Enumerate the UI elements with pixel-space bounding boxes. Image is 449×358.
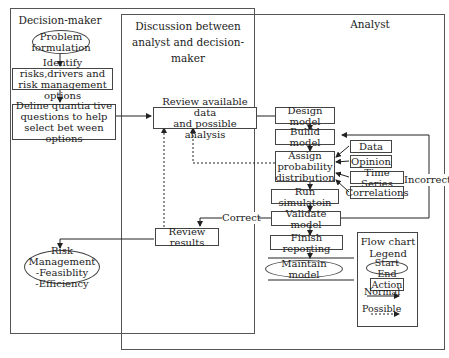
node-build-model: Bulild model xyxy=(275,129,335,145)
node-review-available-data: Review available data and possible analy… xyxy=(153,107,257,129)
input-time-series: Time Series xyxy=(350,171,404,184)
legend-possible: Possible xyxy=(362,303,402,315)
node-review-results: Review results xyxy=(155,228,219,246)
node-design-model: Design model xyxy=(275,107,335,124)
node-problem-formulation: Problem formulation xyxy=(32,30,90,54)
input-correlations: Correlations xyxy=(350,186,404,199)
node-risk-management: Risk Management -Feasiblity -Efficiency xyxy=(24,250,100,284)
node-identify-risks: Identify risks,drivers and risk manageme… xyxy=(12,68,113,90)
node-assign-probability: Assign probability distribution xyxy=(275,151,335,182)
edge-label-correct: Correct xyxy=(222,212,258,224)
node-validate-model: Validate model xyxy=(271,211,341,226)
lane-title-decision-maker: Decision-maker xyxy=(16,14,104,26)
legend-start-end: Start End xyxy=(366,261,408,275)
node-define-questions: Deline quantia tive questions to help se… xyxy=(12,104,116,140)
input-data: Data xyxy=(350,140,392,153)
lane-title-discussion: Discussion between analyst and decision-… xyxy=(124,18,252,66)
flowchart-diagram: Decision-maker Discussion between analys… xyxy=(0,0,449,358)
node-run-simulation: Run simulatoin xyxy=(271,189,339,204)
edge-label-incorrect: Incorrect xyxy=(404,174,448,186)
lane-title-analyst: Analyst xyxy=(330,18,410,30)
legend-normal: Normal xyxy=(364,286,400,298)
node-maintain-model: Maintain model xyxy=(265,260,343,278)
node-finish-reporting: Finish reporting xyxy=(270,235,343,250)
